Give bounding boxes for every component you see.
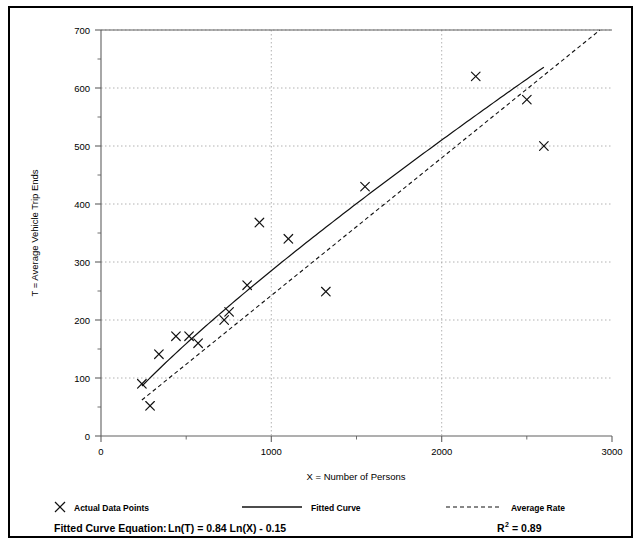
x-tick-label-0: 0 <box>98 446 103 457</box>
data-point-marker <box>471 72 480 81</box>
data-point-marker <box>284 235 293 244</box>
data-point-marker <box>523 95 532 104</box>
chart-canvas: 700 600 500 400 300 200 100 0 0 1000 200… <box>10 8 635 540</box>
series-actual-data-points <box>138 72 549 410</box>
data-point-marker <box>255 218 264 227</box>
legend-label-actual-data-points: Actual Data Points <box>74 503 149 513</box>
axis-lines <box>101 30 612 436</box>
y-tick-label-700: 700 <box>74 25 90 36</box>
series-average-rate <box>142 30 600 400</box>
chart-figure: 700 600 500 400 300 200 100 0 0 1000 200… <box>8 6 633 538</box>
gridlines-vertical <box>271 30 441 436</box>
legend-label-fitted-curve: Fitted Curve <box>311 503 361 513</box>
r-squared-value: = 0.89 <box>512 522 542 534</box>
equation-label: Fitted Curve Equation: <box>54 522 167 534</box>
x-axis-title: X = Number of Persons <box>306 471 405 482</box>
chart-legend: Actual Data Points Fitted Curve Average … <box>55 502 565 513</box>
y-tick-label-600: 600 <box>74 83 90 94</box>
r-squared-exponent: 2 <box>505 521 509 528</box>
y-tick-label-100: 100 <box>74 373 90 384</box>
y-tick-label-300: 300 <box>74 257 90 268</box>
chart-footer: Fitted Curve Equation: Ln(T) = 0.84 Ln(X… <box>54 521 542 534</box>
y-tick-label-500: 500 <box>74 141 90 152</box>
legend-label-average-rate: Average Rate <box>511 503 565 513</box>
data-point-marker <box>155 350 164 359</box>
data-point-marker <box>361 182 370 191</box>
y-tick-label-200: 200 <box>74 315 90 326</box>
r-squared-base: R <box>497 522 505 534</box>
data-point-marker <box>243 281 252 290</box>
legend-marker-x-icon <box>55 502 65 512</box>
x-tick-label-1000: 1000 <box>261 446 282 457</box>
y-tick-label-400: 400 <box>74 199 90 210</box>
data-point-marker <box>146 402 155 411</box>
data-point-marker <box>225 308 234 317</box>
data-point-marker <box>172 332 181 341</box>
x-tick-label-2000: 2000 <box>431 446 452 457</box>
equation-body: Ln(T) = 0.84 Ln(X) - 0.15 <box>168 522 286 534</box>
y-tick-label-0: 0 <box>85 431 90 442</box>
y-axis-title: T = Average Vehicle Trip Ends <box>29 169 40 296</box>
series-fitted-curve <box>142 67 544 386</box>
data-point-marker <box>194 339 203 348</box>
data-point-marker <box>322 287 331 296</box>
data-point-marker <box>540 142 549 151</box>
x-tick-label-3000: 3000 <box>601 446 622 457</box>
data-point-marker <box>185 332 194 341</box>
